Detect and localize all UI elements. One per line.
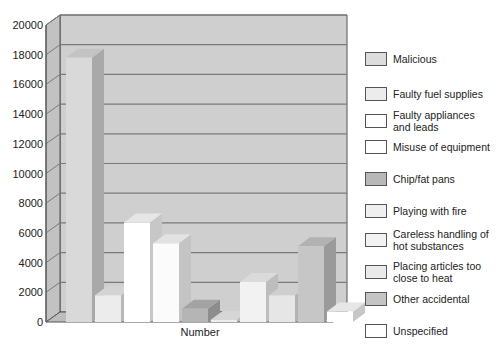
legend-swatch bbox=[365, 140, 387, 154]
legend-item: Faulty appliances and leads bbox=[365, 109, 475, 133]
y-tick-label: 10000 bbox=[12, 168, 43, 180]
legend-label: Faulty fuel supplies bbox=[393, 88, 483, 100]
legend-swatch bbox=[365, 324, 387, 338]
legend-label: Faulty appliances and leads bbox=[393, 109, 475, 133]
legend-swatch bbox=[365, 233, 387, 247]
y-tick-label: 12000 bbox=[12, 138, 43, 150]
y-axis: 0200040006000800010000120001400016000180… bbox=[12, 19, 46, 328]
legend-item: Malicious bbox=[365, 52, 437, 66]
y-tick-label: 6000 bbox=[19, 227, 43, 239]
legend-item: Other accidental bbox=[365, 292, 469, 306]
legend-swatch bbox=[365, 172, 387, 186]
y-tick-label: 0 bbox=[37, 316, 43, 328]
y-tick-label: 4000 bbox=[19, 257, 43, 269]
legend-label: Malicious bbox=[393, 53, 437, 65]
y-tick-label: 16000 bbox=[12, 78, 43, 90]
legend-swatch bbox=[365, 87, 387, 101]
legend-label: Playing with fire bbox=[393, 205, 467, 217]
legend-item: Careless handling of hot substances bbox=[365, 228, 489, 252]
legend-swatch bbox=[365, 292, 387, 306]
y-tick-label: 20000 bbox=[12, 19, 43, 31]
y-tick-label: 8000 bbox=[19, 197, 43, 209]
legend-label: Other accidental bbox=[393, 293, 469, 305]
x-axis-label: Number bbox=[180, 326, 219, 338]
legend-item: Chip/fat pans bbox=[365, 172, 455, 186]
y-tick-label: 14000 bbox=[12, 108, 43, 120]
y-tick-label: 2000 bbox=[19, 286, 43, 298]
legend-swatch bbox=[365, 114, 387, 128]
legend-label: Careless handling of hot substances bbox=[393, 228, 489, 252]
legend-item: Misuse of equipment bbox=[365, 140, 490, 154]
legend-swatch bbox=[365, 52, 387, 66]
y-tick-label: 18000 bbox=[12, 49, 43, 61]
legend-swatch bbox=[365, 265, 387, 279]
legend-label: Chip/fat pans bbox=[393, 173, 455, 185]
legend-item: Unspecified bbox=[365, 324, 448, 338]
bar bbox=[66, 49, 104, 322]
legend-item: Playing with fire bbox=[365, 204, 467, 218]
legend-item: Placing articles too close to heat bbox=[365, 260, 481, 284]
legend-label: Placing articles too close to heat bbox=[393, 260, 481, 284]
legend-swatch bbox=[365, 204, 387, 218]
legend-label: Unspecified bbox=[393, 325, 448, 337]
legend-item: Faulty fuel supplies bbox=[365, 87, 483, 101]
legend-label: Misuse of equipment bbox=[393, 141, 490, 153]
